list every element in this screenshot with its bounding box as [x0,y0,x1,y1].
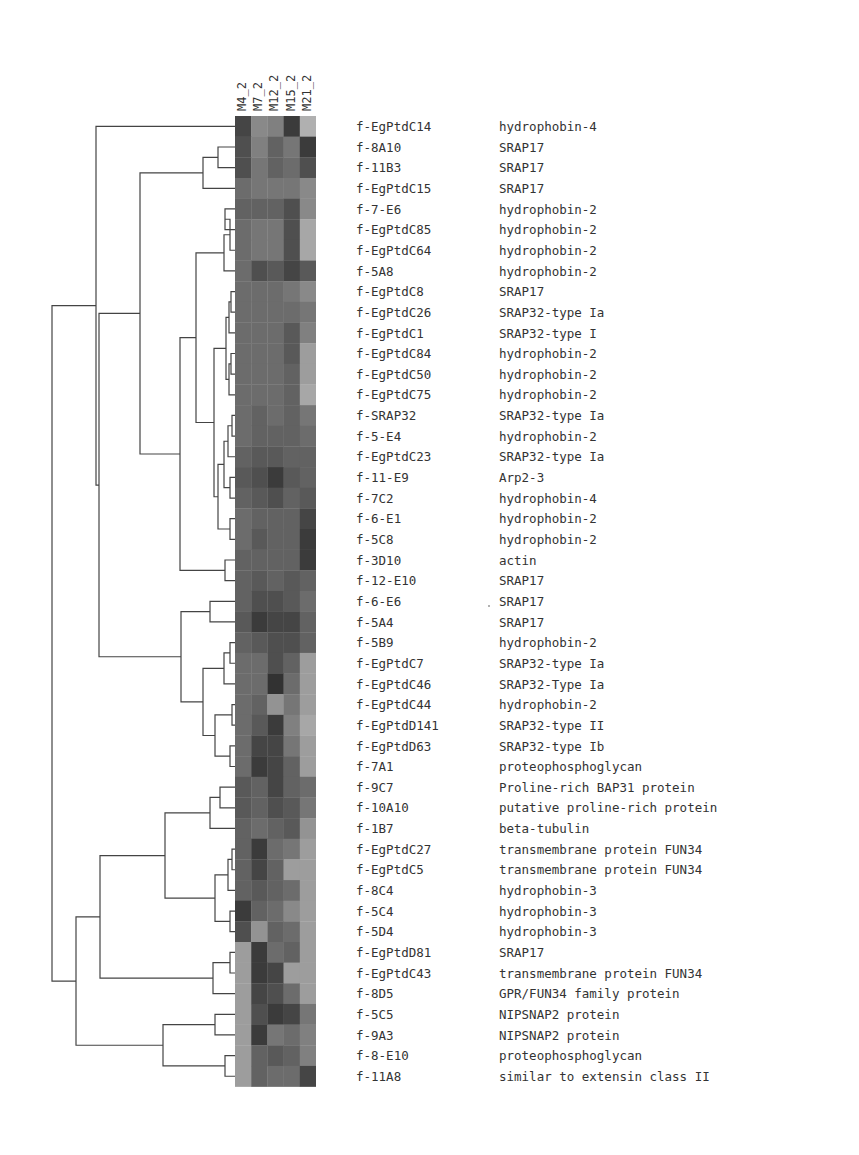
row-annotation-label: SRAP32-type I [499,326,597,341]
row-annotation-label: SRAP32-type Ia [499,449,604,464]
heatmap-cell [284,839,301,860]
row-id-label: f-EgPtdC26 [356,305,431,320]
heatmap-cell [284,508,301,529]
heatmap-cell [284,756,301,777]
heatmap-cell [267,632,284,653]
heatmap-cell [284,199,301,220]
row-annotation-label: GPR/FUN34 family protein [499,986,680,1001]
heatmap-cell [300,859,316,880]
row-annotation-label: transmembrane protein FUN34 [499,842,702,857]
row-id-label: f-5C4 [356,904,394,919]
heatmap-cell [251,880,268,901]
row-id-label: f-EgPtdC15 [356,181,431,196]
row-id-label: f-7C2 [356,491,394,506]
heatmap-cell [235,901,252,922]
heatmap-cell [235,240,252,261]
row-id-label: f-10A10 [356,800,409,815]
heatmap-cell [284,942,301,963]
row-annotation-label: SRAP32-type Ib [499,739,604,754]
heatmap-cell [251,508,268,529]
heatmap-cell [284,488,301,509]
heatmap-cell [251,116,268,137]
heatmap-cell [235,839,252,860]
heatmap-cell [267,901,284,922]
heatmap-cell [284,694,301,715]
heatmap-cell [235,1066,252,1087]
row-id-label: f-9C7 [356,780,394,795]
heatmap-cell [251,818,268,839]
row-dendrogram [0,0,236,1155]
heatmap-cell [267,178,284,199]
heatmap-cell [251,426,268,447]
heatmap-cell [284,859,301,880]
row-annotation-label: NIPSNAP2 protein [499,1028,619,1043]
heatmap-cell [235,157,252,178]
heatmap-cell [235,942,252,963]
heatmap-cell [300,426,316,447]
row-annotation-label: hydrophobin-3 [499,924,597,939]
row-id-label: f-EgPtdC8 [356,284,424,299]
row-id-label: f-EgPtdD141 [356,718,439,733]
heatmap-cell [235,715,252,736]
heatmap-cell [251,384,268,405]
row-id-label: f-EgPtdC46 [356,677,431,692]
heatmap-cell [267,199,284,220]
row-annotation-label: hydrophobin-2 [499,367,597,382]
heatmap-cell [284,818,301,839]
row-annotation-label: SRAP32-Type Ia [499,677,604,692]
heatmap-cell [251,488,268,509]
heatmap-cell [300,921,316,942]
row-id-label: f-1B7 [356,821,394,836]
heatmap-cell [235,736,252,757]
heatmap-cell [267,261,284,282]
heatmap-cell [300,1045,316,1066]
heatmap-cell [300,343,316,364]
heatmap-cell [300,715,316,736]
row-id-label: f-5A8 [356,264,394,279]
heatmap-cell [284,612,301,633]
row-id-label: f-5-E4 [356,429,401,444]
heatmap-cell [235,612,252,633]
heatmap-cell [300,446,316,467]
heatmap-cell [235,405,252,426]
heatmap-cell [284,178,301,199]
heatmap-cell [235,488,252,509]
row-annotation-label: hydrophobin-2 [499,222,597,237]
row-annotation-label: SRAP17 [499,594,544,609]
heatmap-cell [267,219,284,240]
heatmap-cell [300,963,316,984]
heatmap-cell [267,983,284,1004]
heatmap-cell [300,570,316,591]
heatmap-cell [267,426,284,447]
heatmap-cell [251,323,268,344]
heatmap-cell [235,446,252,467]
heatmap-cell [267,839,284,860]
heatmap-cell [251,467,268,488]
heatmap-cell [300,240,316,261]
heatmap-grid [235,116,316,1087]
heatmap-cell [284,880,301,901]
heatmap-cell [251,529,268,550]
heatmap-cell [251,901,268,922]
row-annotation-label: SRAP32-type Ia [499,305,604,320]
row-id-label: f-EgPtdC85 [356,222,431,237]
heatmap-cell [267,1004,284,1025]
row-id-label: f-8D5 [356,986,394,1001]
heatmap-cell [300,364,316,385]
heatmap-cell [300,199,316,220]
heatmap-cell [251,157,268,178]
heatmap-cell [235,983,252,1004]
heatmap-cell [251,694,268,715]
heatmap-cell [251,550,268,571]
heatmap-cell [284,240,301,261]
heatmap-cell [284,550,301,571]
heatmap-cell [284,116,301,137]
heatmap-cell [284,653,301,674]
row-annotation-label: beta-tubulin [499,821,589,836]
heatmap-cell [267,446,284,467]
column-label: M21_2 [300,75,314,111]
heatmap-cell [284,1045,301,1066]
row-annotation-label: hydrophobin-2 [499,346,597,361]
heatmap-cell [284,426,301,447]
row-id-label: f-EgPtdC23 [356,449,431,464]
